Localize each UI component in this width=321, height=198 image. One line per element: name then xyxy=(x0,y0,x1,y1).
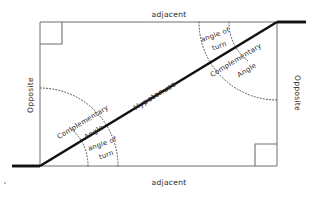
label-hypotenuse: Hypotenuse xyxy=(132,79,178,112)
right-angle-marker-bottom-right xyxy=(255,144,277,166)
label-complementary-angle-lower-line2: Angle xyxy=(83,123,105,141)
label-opposite-right: Opposite xyxy=(293,75,302,111)
trigonometry-diagram: adjacent adjacent Opposite Opposite Hypo… xyxy=(0,0,321,198)
label-complementary-angle-upper-line2: Angle xyxy=(236,61,258,79)
label-adjacent-top: adjacent xyxy=(152,10,187,19)
label-opposite-left: Opposite xyxy=(26,77,35,113)
diagram-canvas: adjacent adjacent Opposite Opposite Hypo… xyxy=(0,0,321,198)
label-angle-of-turn-lower-line2: turn xyxy=(98,149,115,162)
label-adjacent-bottom: adjacent xyxy=(152,178,187,187)
label-angle-of-turn-upper-line2: turn xyxy=(211,40,228,53)
artifact-speck xyxy=(4,182,6,184)
label-angle-of-turn-upper-line1: angle of xyxy=(200,26,231,44)
right-angle-marker-top-left xyxy=(40,22,62,44)
